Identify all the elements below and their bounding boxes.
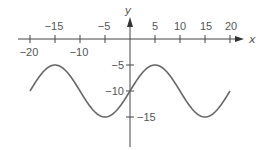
y-tick-label: −10 <box>105 85 124 97</box>
chart: −15 −5 5 10 15 20 −20 −10 x −5 −10 −15 y <box>0 0 265 150</box>
x-tick-label: 5 <box>152 20 158 32</box>
y-axis-arrow-icon <box>127 17 133 27</box>
x-axis-label: x <box>248 33 256 46</box>
x-tick-label: −20 <box>20 46 39 58</box>
x-tick-label: −5 <box>98 20 111 32</box>
x-axis: −15 −5 5 10 15 20 −20 −10 x <box>18 20 256 58</box>
x-axis-arrow-icon <box>235 36 244 42</box>
y-axis: −5 −10 −15 y <box>105 4 155 147</box>
x-tick-label: 20 <box>225 20 237 32</box>
x-tick-label: 10 <box>174 20 186 32</box>
y-axis-label: y <box>124 4 132 17</box>
x-tick-label: −15 <box>45 20 64 32</box>
y-tick-label: −15 <box>137 111 156 123</box>
x-tick-label: −10 <box>70 46 89 58</box>
x-tick-label: 15 <box>200 20 212 32</box>
y-tick-label: −5 <box>111 59 124 71</box>
